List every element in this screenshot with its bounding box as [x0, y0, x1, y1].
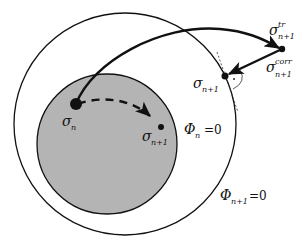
right-angle-dot — [233, 78, 235, 80]
svg-text:=0: =0 — [249, 189, 267, 203]
point-sigma-n — [70, 98, 82, 110]
svg-text:n+1: n+1 — [278, 32, 295, 41]
svg-text:n+1: n+1 — [202, 85, 219, 94]
point-sigma-n1-inner — [158, 124, 164, 130]
label-sigma-n1-outer: σ n+1 — [193, 75, 219, 94]
label-phi-n: Φ n =0 — [184, 121, 222, 140]
label-sigma-corr: σ corr n+1 — [266, 57, 293, 79]
svg-text:n+1: n+1 — [275, 70, 292, 79]
svg-text:n: n — [195, 131, 200, 140]
svg-text:Φ: Φ — [220, 187, 231, 203]
svg-text:n+1: n+1 — [231, 197, 248, 206]
label-phi-n1: Φ n+1 =0 — [220, 187, 267, 206]
label-sigma-trial: σ tr n+1 — [269, 20, 295, 41]
svg-text:n: n — [71, 123, 76, 132]
return-mapping-diagram: σ n σ n+1 σ tr n+1 σ corr n+1 σ n+1 Φ n … — [0, 0, 306, 248]
point-sigma-n1-outer — [222, 73, 229, 80]
svg-text:=0: =0 — [204, 123, 222, 137]
svg-text:Φ: Φ — [184, 121, 195, 137]
point-sigma-trial — [279, 46, 285, 52]
svg-text:n+1: n+1 — [151, 138, 168, 147]
svg-text:corr: corr — [275, 57, 293, 66]
svg-text:tr: tr — [278, 20, 286, 29]
